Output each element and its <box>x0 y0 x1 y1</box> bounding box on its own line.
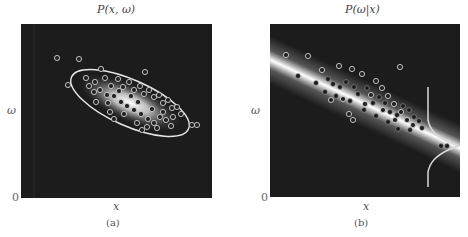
panel-b-plot <box>270 24 460 197</box>
joint-density-plot <box>21 24 212 198</box>
panel-b-ylabel: ω <box>251 104 260 117</box>
panel-a-caption: (a) <box>106 217 120 228</box>
panel-a-origin: 0 <box>12 191 19 204</box>
panel-b-title: P(ω|x) <box>345 3 380 16</box>
panel-a-title: P(x, ω) <box>97 3 135 16</box>
panel-b-caption: (b) <box>354 217 368 228</box>
conditional-density-plot <box>270 24 460 197</box>
panel-a-plot <box>21 24 212 198</box>
panel-a-xlabel: x <box>113 200 119 213</box>
panel-b-xlabel: x <box>363 200 369 213</box>
panel-a-ylabel: ω <box>7 104 16 117</box>
panel-b-origin: 0 <box>261 191 268 204</box>
